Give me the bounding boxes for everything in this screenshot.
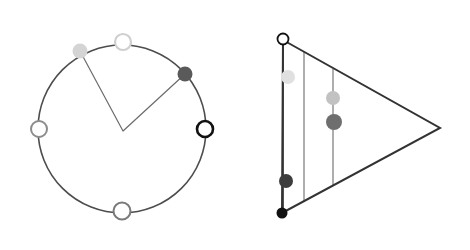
node-left-gray-ring[interactable] — [31, 121, 47, 137]
node-col3-light[interactable] — [326, 91, 340, 105]
node-col1-dark[interactable] — [279, 174, 293, 188]
canvas-background — [0, 0, 470, 250]
node-bottom-left-vertex-black[interactable] — [277, 208, 288, 219]
node-col1-light[interactable] — [281, 70, 295, 84]
node-upper-right-dark[interactable] — [178, 67, 193, 82]
node-top-left-vertex-open[interactable] — [278, 34, 289, 45]
node-col3-dark[interactable] — [326, 114, 342, 130]
node-bottom-gray-ring[interactable] — [114, 203, 131, 220]
node-upper-left-light[interactable] — [73, 44, 88, 59]
diagram-canvas — [0, 0, 470, 250]
node-top-white[interactable] — [115, 34, 131, 50]
node-right-black-ring[interactable] — [197, 121, 213, 137]
